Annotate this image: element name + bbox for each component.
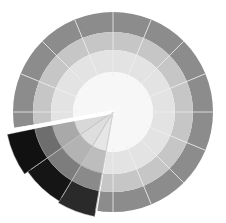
value-wheel [0, 0, 226, 223]
value-wheel-figure [0, 0, 226, 223]
extracted-dark-wedge [4, 112, 113, 221]
